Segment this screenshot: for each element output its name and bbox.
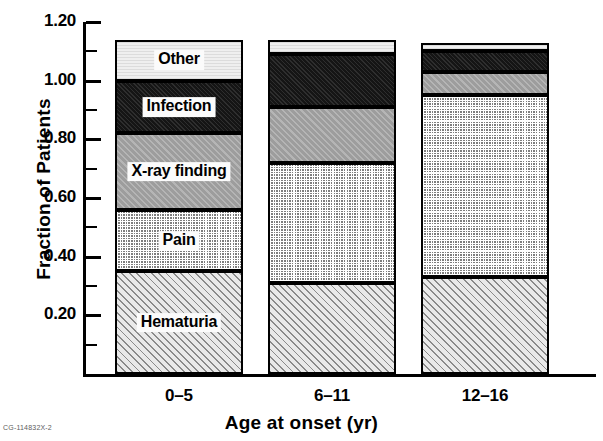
bar-segment-other[interactable] <box>421 43 549 52</box>
y-axis-tick-label: 0.20 <box>12 304 76 324</box>
bar-segment-hematuria[interactable] <box>268 283 396 374</box>
x-axis-title: Age at onset (yr) <box>0 412 603 434</box>
plot-area: HematuriaPainX-ray findingInfectionOther <box>84 22 596 374</box>
bar-segment-pain[interactable]: Pain <box>115 210 243 272</box>
bar-segment-infection[interactable] <box>268 54 396 107</box>
y-axis-tick-label: 1.20 <box>12 11 76 31</box>
bar-segment-other[interactable]: Other <box>115 40 243 81</box>
bar-segment-hematuria[interactable]: Hematuria <box>115 271 243 374</box>
bar-segment-infection[interactable]: Infection <box>115 81 243 134</box>
bar-segment-xray[interactable] <box>268 107 396 163</box>
segment-label-hematuria: Hematuria <box>137 313 221 333</box>
bar-segment-xray[interactable] <box>421 72 549 95</box>
bar-segment-pain[interactable] <box>268 163 396 283</box>
y-axis-tick-label: 1.00 <box>12 70 76 90</box>
segment-fill-infection <box>423 53 547 70</box>
bar-6-11[interactable] <box>268 40 396 374</box>
bar-0-5[interactable]: HematuriaPainX-ray findingInfectionOther <box>115 40 243 374</box>
segment-fill-other <box>270 42 394 53</box>
x-axis-line <box>83 374 596 377</box>
x-axis-tick-label: 12–16 <box>425 386 545 406</box>
segment-fill-xray <box>423 74 547 93</box>
segment-label-other: Other <box>154 50 204 70</box>
segment-fill-xray <box>270 109 394 161</box>
bar-segment-hematuria[interactable] <box>421 277 549 374</box>
segment-label-xray: X-ray finding <box>127 162 230 182</box>
stacked-bar-chart-figure: Fraction of Patients 1.201.000.800.600.4… <box>0 0 603 441</box>
segment-fill-pain <box>270 165 394 281</box>
segment-fill-hematuria <box>423 279 547 372</box>
bar-12-16[interactable] <box>421 43 549 374</box>
y-axis-tick-label: 0.40 <box>12 246 76 266</box>
segment-fill-hematuria <box>270 285 394 372</box>
segment-fill-pain <box>423 97 547 275</box>
bar-segment-pain[interactable] <box>421 95 549 277</box>
segment-fill-other <box>423 45 547 50</box>
segment-label-infection: Infection <box>143 97 216 117</box>
y-axis-tick-label: 0.80 <box>12 128 76 148</box>
y-axis-tick-label: 0.60 <box>12 187 76 207</box>
bar-segment-other[interactable] <box>268 40 396 55</box>
figure-reference-code: CG-114832X-2 <box>3 424 52 431</box>
x-axis-tick-label: 6–11 <box>272 386 392 406</box>
x-axis-tick-label: 0–5 <box>119 386 239 406</box>
segment-fill-infection <box>270 56 394 105</box>
bar-segment-xray[interactable]: X-ray finding <box>115 133 243 209</box>
segment-label-pain: Pain <box>159 231 200 251</box>
bar-segment-infection[interactable] <box>421 51 549 72</box>
